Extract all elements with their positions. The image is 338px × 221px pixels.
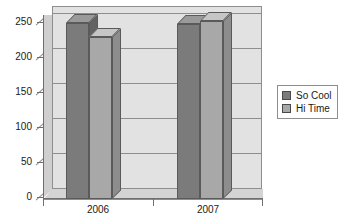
bar-side-face — [112, 28, 121, 199]
bar-front-face — [200, 21, 223, 199]
y-tick-label-200: 200 — [2, 52, 32, 62]
legend-label-so-cool: So Cool — [296, 91, 332, 101]
y-tick-label-0: 0 — [2, 192, 32, 202]
y-tick-mark-0 — [37, 197, 43, 198]
bar-front-face — [89, 37, 112, 199]
legend-item-hi-time[interactable]: Hi Time — [282, 102, 332, 115]
y-tick-label-50: 50 — [2, 157, 32, 167]
y-tick-mark-150 — [37, 92, 43, 93]
y-tick-label-250: 250 — [2, 17, 32, 27]
legend-swatch-icon — [282, 91, 291, 100]
y-tick-mark-50 — [37, 162, 43, 163]
x-tick-mark-left — [43, 199, 44, 206]
bar-2007-so-cool — [177, 0, 200, 199]
x-tick-mark-right — [262, 199, 263, 206]
y-tick-mark-100 — [37, 127, 43, 128]
y-tick-label-100: 100 — [2, 122, 32, 132]
y-tick-label-150: 150 — [2, 87, 32, 97]
y-tick-mark-250 — [37, 22, 43, 23]
x-tick-mark-middle — [153, 199, 154, 206]
legend-label-hi-time: Hi Time — [296, 104, 330, 114]
bar-front-face — [66, 23, 89, 199]
legend-item-so-cool[interactable]: So Cool — [282, 89, 332, 102]
y-tick-mark-200 — [37, 57, 43, 58]
bar-2007-hi-time — [200, 0, 223, 199]
y-axis-line — [43, 15, 44, 199]
x-tick-label-2007: 2007 — [178, 205, 238, 215]
bar-2006-so-cool — [66, 0, 89, 199]
bar-2006-hi-time — [89, 0, 112, 199]
legend: So Cool Hi Time — [277, 85, 338, 119]
bar-side-face — [223, 12, 232, 199]
x-tick-label-2006: 2006 — [68, 205, 128, 215]
legend-swatch-icon — [282, 104, 291, 113]
bar-front-face — [177, 24, 200, 199]
